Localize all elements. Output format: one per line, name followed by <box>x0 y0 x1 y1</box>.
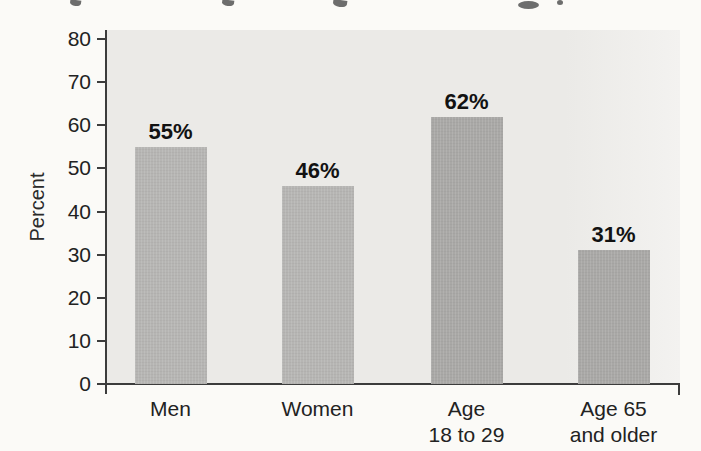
value-label-age-65-and-older: 31% <box>544 223 684 247</box>
value-label-women: 46% <box>248 159 388 183</box>
x-axis-end-tick <box>678 383 680 395</box>
cropped-title-fragment <box>333 0 348 8</box>
y-tick-label-70: 70 <box>21 70 91 94</box>
category-label-age-65-and-older: Age 65 and older <box>539 396 689 448</box>
bar-age-65-and-older <box>578 250 650 384</box>
value-label-men: 55% <box>101 120 241 144</box>
cropped-title-fragment <box>70 0 82 7</box>
y-tick-label-30: 30 <box>21 243 91 267</box>
y-axis-line <box>105 30 107 394</box>
scanned-chart-page: Percent 01020304050607080 55%Men46%Women… <box>0 0 701 451</box>
cropped-title-fragment <box>222 0 235 7</box>
y-tick-label-60: 60 <box>21 113 91 137</box>
bar-men <box>135 147 207 384</box>
category-label-age-18-to-29: Age 18 to 29 <box>392 396 542 448</box>
y-tick-label-20: 20 <box>21 286 91 310</box>
y-tick-label-40: 40 <box>21 200 91 224</box>
y-tick-label-80: 80 <box>21 27 91 51</box>
value-label-age-18-to-29: 62% <box>397 90 537 114</box>
y-tick-label-0: 0 <box>21 372 91 396</box>
y-tick-label-10: 10 <box>21 329 91 353</box>
cropped-title-fragment <box>518 1 539 9</box>
y-tick-label-50: 50 <box>21 156 91 180</box>
bar-age-18-to-29 <box>431 117 503 384</box>
cropped-title-fragment <box>557 0 563 5</box>
category-label-women: Women <box>243 396 393 422</box>
category-label-men: Men <box>96 396 246 422</box>
bar-women <box>282 186 354 384</box>
